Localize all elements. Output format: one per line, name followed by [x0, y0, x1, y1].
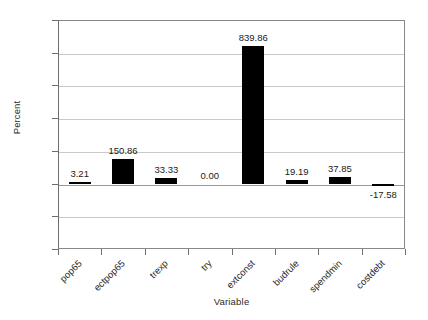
y-axis-tick-mark — [52, 118, 58, 119]
bar[interactable] — [286, 180, 308, 183]
y-axis-tick-mark — [52, 20, 58, 21]
x-axis-tick-mark — [101, 249, 102, 255]
y-axis-tick-mark — [52, 216, 58, 217]
bar[interactable] — [69, 182, 91, 184]
y-axis-title: Percent — [11, 78, 22, 158]
y-axis-tick-mark — [52, 151, 58, 152]
gridline — [59, 185, 404, 186]
x-axis-tick-mark — [188, 249, 189, 255]
x-axis-tick-mark — [362, 249, 363, 255]
y-axis-tick-mark — [52, 85, 58, 86]
bar[interactable] — [329, 177, 351, 183]
gridline — [59, 217, 404, 218]
x-axis-title: Variable — [58, 296, 405, 307]
bar-value-label: 150.86 — [109, 145, 138, 156]
gridline — [59, 119, 404, 120]
bar[interactable] — [155, 178, 177, 183]
x-axis-tick-mark — [58, 249, 59, 255]
gridline — [59, 54, 404, 55]
x-axis-tick-mark — [275, 249, 276, 255]
bar-value-label: 37.85 — [328, 163, 352, 174]
y-axis-tick-mark — [52, 184, 58, 185]
bar[interactable] — [112, 159, 134, 184]
bar[interactable] — [372, 184, 394, 187]
bar[interactable] — [242, 46, 264, 183]
bar-value-label: 3.21 — [70, 168, 89, 179]
bar-value-label: 839.86 — [239, 32, 268, 43]
y-axis-tick-mark — [52, 53, 58, 54]
bar-value-label: -17.58 — [370, 189, 397, 200]
bar-chart: Percent 10008006004002000-200-400 3.2115… — [0, 0, 428, 320]
plot-area — [58, 20, 405, 249]
x-axis-tick-mark — [232, 249, 233, 255]
bar-value-label: 19.19 — [285, 166, 309, 177]
bar-value-label: 33.33 — [155, 164, 179, 175]
bar-value-label: 0.00 — [201, 170, 220, 181]
x-axis-tick-mark — [405, 249, 406, 255]
gridline — [59, 86, 404, 87]
x-axis-tick-mark — [318, 249, 319, 255]
x-axis-tick-mark — [145, 249, 146, 255]
